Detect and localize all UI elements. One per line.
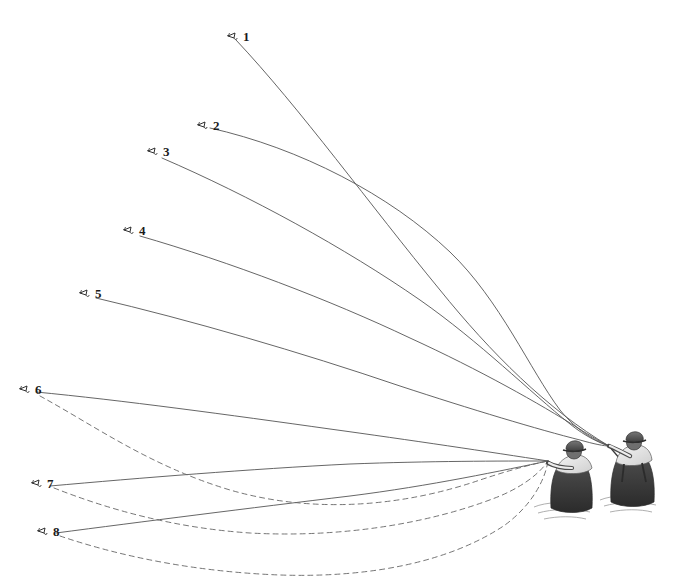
- fly-hook-icon: [30, 478, 44, 490]
- fly-marker-6[interactable]: 6: [18, 383, 42, 396]
- fly-marker-label: 1: [243, 30, 250, 43]
- cast-line-4: [140, 236, 609, 446]
- left-angler-hat: [566, 441, 583, 452]
- angler-wading-right: [600, 432, 656, 512]
- figure-canvas: 1 2 3 4 5: [0, 0, 678, 583]
- fly-hook-icon: [78, 288, 92, 300]
- fly-marker-label: 4: [139, 224, 146, 237]
- fly-marker-label: 3: [163, 145, 170, 158]
- fly-marker-label: 5: [95, 287, 102, 300]
- cast-line-8-dashed: [60, 461, 548, 575]
- fly-marker-7[interactable]: 7: [30, 477, 54, 490]
- cast-line-8-solid: [56, 461, 548, 533]
- fly-marker-8[interactable]: 8: [36, 525, 60, 538]
- fly-marker-3[interactable]: 3: [146, 145, 170, 158]
- fly-hook-icon: [18, 384, 32, 396]
- fly-marker-label: 2: [213, 119, 220, 132]
- right-angler-waders: [611, 461, 655, 507]
- fly-hook-icon: [36, 526, 50, 538]
- fly-hook-icon: [226, 31, 240, 43]
- cast-line-6-dashed: [40, 396, 548, 505]
- fly-marker-label: 8: [53, 525, 60, 538]
- cast-line-5: [96, 298, 609, 446]
- fly-hook-icon: [196, 120, 210, 132]
- fly-marker-5[interactable]: 5: [78, 287, 102, 300]
- fly-hook-icon: [146, 146, 160, 158]
- cast-line-6-solid: [36, 392, 548, 461]
- fly-marker-label: 6: [35, 383, 42, 396]
- right-angler-hat: [626, 432, 643, 443]
- fly-marker-4[interactable]: 4: [122, 224, 146, 237]
- fly-hook-icon: [122, 225, 136, 237]
- fly-marker-label: 7: [47, 477, 54, 490]
- cast-line-2: [210, 128, 609, 446]
- cast-line-7-dashed: [54, 461, 548, 534]
- cast-line-1: [236, 40, 609, 446]
- dashed-cast-lines: [40, 396, 548, 575]
- solid-cast-lines: [36, 40, 609, 533]
- fly-marker-1[interactable]: 1: [226, 30, 250, 43]
- fly-marker-2[interactable]: 2: [196, 119, 220, 132]
- left-angler-waders: [551, 468, 593, 513]
